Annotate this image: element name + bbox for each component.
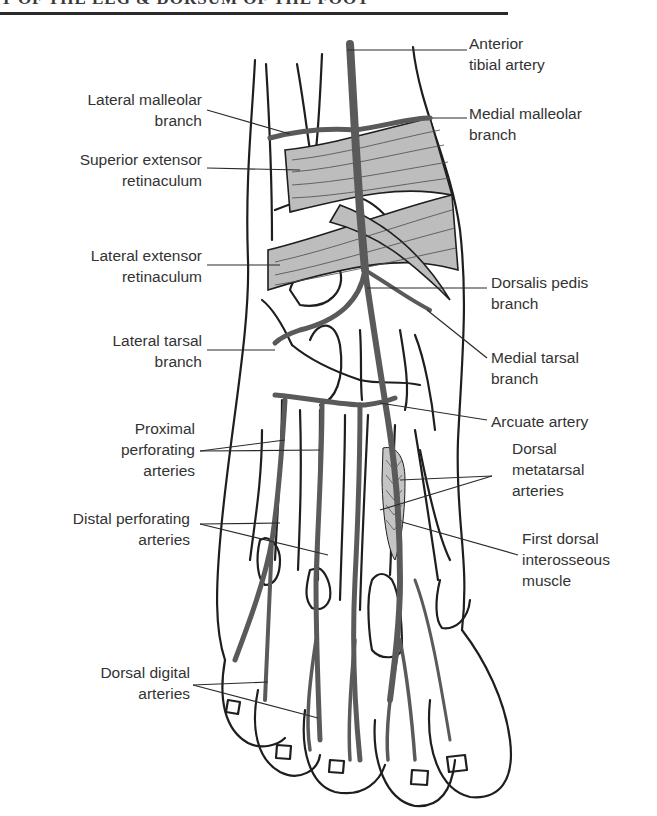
- label-line: muscle: [522, 570, 610, 591]
- label-lateral-tarsal-branch: Lateral tarsal branch: [0, 330, 202, 372]
- label-line: perforating: [0, 439, 195, 460]
- label-line: Proximal: [0, 418, 195, 439]
- label-superior-extensor-retinaculum: Superior extensor retinaculum: [0, 149, 202, 191]
- label-line: Distal perforating: [0, 508, 190, 529]
- label-line: branch: [491, 368, 579, 389]
- label-line: Lateral extensor: [0, 245, 202, 266]
- label-anterior-tibial-artery: Anterior tibial artery: [469, 33, 545, 75]
- label-line: branch: [491, 293, 588, 314]
- label-line: Arcuate artery: [491, 411, 588, 432]
- label-dorsal-metatarsal-arteries: Dorsal metatarsal arteries: [512, 438, 584, 501]
- label-line: Dorsal: [512, 438, 584, 459]
- label-line: Superior extensor: [0, 149, 202, 170]
- label-line: branch: [0, 110, 202, 131]
- label-line: arteries: [0, 529, 190, 550]
- label-line: arteries: [512, 480, 584, 501]
- label-line: Lateral malleolar: [0, 89, 202, 110]
- label-dorsal-digital-arteries: Dorsal digital arteries: [0, 662, 190, 704]
- label-line: Anterior: [469, 33, 545, 54]
- label-line: arteries: [0, 460, 195, 481]
- label-line: arteries: [0, 683, 190, 704]
- label-line: retinaculum: [0, 170, 202, 191]
- label-line: retinaculum: [0, 266, 202, 287]
- label-dorsalis-pedis-branch: Dorsalis pedis branch: [491, 272, 588, 314]
- label-line: branch: [469, 124, 582, 145]
- label-distal-perforating-arteries: Distal perforating arteries: [0, 508, 190, 550]
- label-line: Medial malleolar: [469, 103, 582, 124]
- label-line: Lateral tarsal: [0, 330, 202, 351]
- label-medial-malleolar-branch: Medial malleolar branch: [469, 103, 582, 145]
- label-arcuate-artery: Arcuate artery: [491, 411, 588, 432]
- label-line: Dorsalis pedis: [491, 272, 588, 293]
- label-line: Dorsal digital: [0, 662, 190, 683]
- label-line: tibial artery: [469, 54, 545, 75]
- label-lateral-extensor-retinaculum: Lateral extensor retinaculum: [0, 245, 202, 287]
- label-proximal-perforating-arteries: Proximal perforating arteries: [0, 418, 195, 481]
- label-line: First dorsal: [522, 528, 610, 549]
- label-line: Medial tarsal: [491, 347, 579, 368]
- label-line: branch: [0, 351, 202, 372]
- label-medial-tarsal-branch: Medial tarsal branch: [491, 347, 579, 389]
- label-line: metatarsal: [512, 459, 584, 480]
- label-line: interosseous: [522, 549, 610, 570]
- label-lateral-malleolar-branch: Lateral malleolar branch: [0, 89, 202, 131]
- label-first-dorsal-interosseous-muscle: First dorsal interosseous muscle: [522, 528, 610, 591]
